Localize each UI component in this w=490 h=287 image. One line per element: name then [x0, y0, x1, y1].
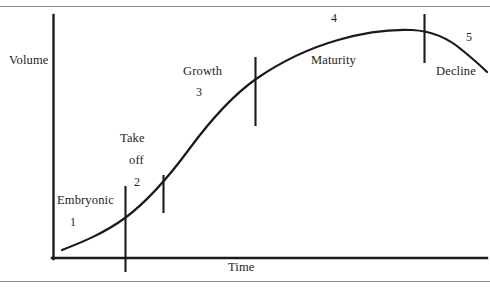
- stage-number-4: 4: [331, 12, 337, 25]
- stage-label-growth: Growth: [183, 65, 222, 79]
- stage-label-takeoff-line1: Take: [120, 132, 145, 146]
- stage-number-2: 2: [134, 176, 140, 189]
- industry-life-cycle-figure: Volume Time Embryonic 1 Take off 2 Growt…: [0, 0, 490, 287]
- stage-number-3: 3: [196, 86, 202, 99]
- stage-number-5: 5: [466, 31, 472, 44]
- stage-label-embryonic: Embryonic: [57, 194, 114, 208]
- stage-label-maturity: Maturity: [311, 54, 356, 68]
- stage-label-decline: Decline: [436, 65, 476, 79]
- stage-label-takeoff-line2: off: [129, 154, 144, 168]
- y-axis-label: Volume: [9, 54, 49, 68]
- s-curve-diagram: [0, 0, 490, 287]
- stage-number-1: 1: [70, 216, 76, 229]
- x-axis-label: Time: [228, 261, 255, 275]
